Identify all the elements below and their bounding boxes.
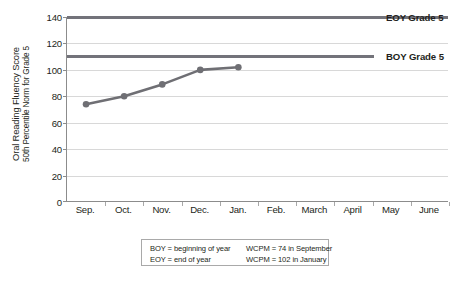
y-tick-40: 40 — [30, 144, 62, 155]
y-tick-20: 20 — [30, 170, 62, 181]
x-tick-label-jan: Jan. — [229, 204, 246, 215]
x-tick-label-march: March — [301, 204, 327, 215]
x-tick-label-feb: Feb. — [267, 204, 285, 215]
y-tick-80: 80 — [30, 91, 62, 102]
y-tick-60: 60 — [30, 117, 62, 128]
chart-key-box: BOY = beginning of year WCPM = 74 in Sep… — [141, 239, 329, 266]
reference-label-eoy: EOY Grade 5 — [386, 12, 443, 23]
data-point-jan — [235, 64, 242, 71]
y-tick-140: 140 — [30, 12, 62, 23]
series-orf-line — [67, 17, 448, 202]
x-tick-label-june: June — [419, 204, 439, 215]
reference-label-boy: BOY Grade 5 — [386, 51, 444, 62]
x-tickmark-10 — [449, 202, 450, 206]
y-tick-100: 100 — [30, 64, 62, 75]
y-tick-120: 120 — [30, 38, 62, 49]
data-point-oct — [121, 93, 128, 100]
x-tick-label-oct: Oct. — [115, 204, 132, 215]
x-tick-label-april: April — [343, 204, 361, 215]
data-point-nov — [159, 81, 166, 88]
key-boy-definition: BOY = beginning of year — [150, 244, 246, 254]
x-axis-tick-labels: Sep. Oct. Nov. Dec. Jan. Feb. March Apri… — [66, 204, 448, 220]
key-eoy-definition: EOY = end of year — [150, 255, 246, 265]
x-tick-label-sep: Sep. — [76, 204, 95, 215]
y-tick-0: 0 — [30, 197, 62, 208]
orf-progress-chart-figure: Oral Reading Fluency Score 50th Percenti… — [0, 0, 460, 287]
key-wcpm-january: WCPM = 102 in January — [246, 255, 332, 265]
x-tick-label-nov: Nov. — [152, 204, 170, 215]
data-point-sep — [83, 101, 90, 108]
x-tick-label-may: May — [382, 204, 400, 215]
y-axis-title-primary: Oral Reading Fluency Score — [11, 46, 22, 162]
data-point-dec — [197, 67, 204, 74]
x-tick-label-dec: Dec. — [190, 204, 209, 215]
plot-area — [66, 17, 448, 202]
y-axis-tick-labels: 140 120 100 80 60 40 20 0 — [30, 0, 62, 287]
key-wcpm-september: WCPM = 74 in September — [246, 244, 332, 254]
